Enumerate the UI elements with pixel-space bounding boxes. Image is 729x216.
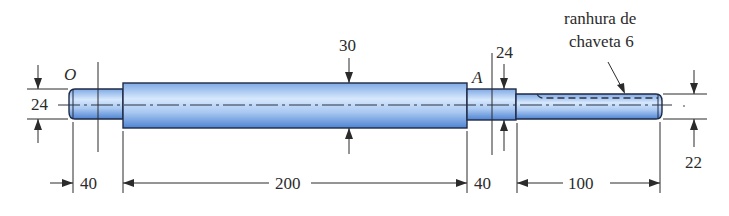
point-a-label: A — [471, 68, 483, 87]
dim-label: 200 — [275, 174, 301, 193]
keyway-label-line2: chaveta 6 — [569, 32, 634, 51]
center-dot — [683, 105, 685, 107]
dim-a-length: 40 — [474, 174, 491, 193]
dim-left-diameter: 24 — [27, 65, 68, 143]
dim-label: 22 — [685, 153, 702, 172]
shaft-diagram: 24 O 30 A 24 ranhura de chaveta 6 22 — [0, 0, 729, 216]
shaft-drawing: 24 O 30 A 24 ranhura de chaveta 6 22 — [0, 0, 729, 216]
point-o-label: O — [64, 65, 76, 84]
dim-label: 24 — [31, 95, 49, 114]
dim-label: 40 — [474, 174, 491, 193]
keyway-callout: ranhura de chaveta 6 — [564, 9, 636, 94]
dim-label: 30 — [339, 36, 356, 55]
dim-main-length: 200 — [123, 174, 467, 193]
dim-right-length: 100 — [517, 174, 660, 193]
dim-label: 100 — [568, 174, 594, 193]
dim-label: 40 — [80, 174, 97, 193]
left-journal-segment — [69, 89, 123, 119]
keyway-label-line1: ranhura de — [564, 9, 636, 28]
dim-right-diameter: 22 — [663, 70, 707, 172]
dim-label: 24 — [496, 43, 514, 62]
